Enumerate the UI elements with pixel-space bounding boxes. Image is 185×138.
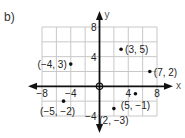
point-label: (−5, −2)	[40, 106, 75, 117]
y-axis-label: y	[105, 9, 110, 20]
x-tick-label: −4	[65, 88, 77, 99]
x-axis-label: x	[176, 80, 181, 91]
data-point	[62, 99, 66, 103]
point-label: (2, −3)	[99, 115, 128, 126]
data-point	[148, 70, 152, 74]
x-axis-right-arrow-icon	[164, 83, 173, 90]
data-point	[119, 47, 123, 51]
x-tick-label: −8	[36, 88, 48, 99]
data-point	[134, 92, 138, 96]
point-label: (5, −1)	[121, 100, 150, 111]
x-tick-label: 8	[154, 88, 160, 99]
y-tick-label: 4	[91, 52, 97, 63]
y-tick-label: 8	[91, 22, 97, 33]
y-tick-label: −4	[85, 111, 97, 122]
data-point	[112, 107, 116, 111]
point-label: (−4, 3)	[38, 59, 67, 70]
point-label: (7, 2)	[154, 67, 177, 78]
x-tick-label: 4	[125, 88, 131, 99]
coordinate-plane: xy −8−44884−4 (−4, 3)(3, 5)(7, 2)(−5, −2…	[0, 0, 185, 138]
data-point	[69, 62, 73, 66]
y-axis-up-arrow-icon	[96, 11, 103, 20]
point-label: (3, 5)	[125, 44, 148, 55]
